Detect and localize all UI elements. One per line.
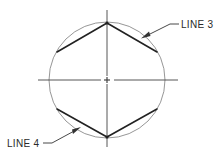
label-line-4: LINE 4 bbox=[7, 138, 40, 149]
line4-leader bbox=[43, 130, 76, 143]
label-line-3: LINE 3 bbox=[181, 19, 214, 30]
line3-leader bbox=[146, 24, 179, 36]
top-vertex-dot bbox=[105, 21, 108, 24]
bottom-vertex-dot bbox=[105, 135, 108, 138]
hexagon-construction-diagram: LINE 3 LINE 4 bbox=[0, 0, 223, 157]
line4-arrowhead-icon bbox=[72, 127, 81, 134]
